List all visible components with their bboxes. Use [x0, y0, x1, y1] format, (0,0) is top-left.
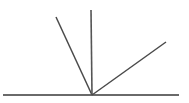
- angle-rays-figure: [0, 0, 189, 103]
- right-diagonal-ray: [92, 42, 166, 95]
- figure-svg-canvas: [0, 0, 189, 103]
- left-diagonal-ray: [56, 17, 92, 95]
- vertical-ray: [91, 10, 92, 95]
